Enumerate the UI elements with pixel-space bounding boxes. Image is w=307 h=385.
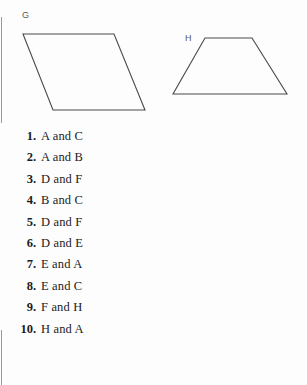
list-item[interactable]: 4. B and C bbox=[0, 190, 307, 211]
figures-svg bbox=[0, 0, 307, 122]
list-item[interactable]: 3. D and F bbox=[0, 169, 307, 190]
figure-label-h: H bbox=[185, 34, 192, 43]
answer-number: 10. bbox=[0, 319, 36, 340]
answer-text: A and B bbox=[41, 147, 83, 168]
parallelogram-shape-g bbox=[23, 34, 145, 110]
answer-text: B and C bbox=[41, 190, 83, 211]
answer-number: 5. bbox=[0, 212, 36, 233]
list-item[interactable]: 1. A and C bbox=[0, 126, 307, 147]
figure-label-g: G bbox=[22, 11, 29, 20]
list-item[interactable]: 10. H and A bbox=[0, 319, 307, 340]
trapezoid-shape-h bbox=[173, 38, 287, 94]
answer-text: H and A bbox=[41, 319, 84, 340]
list-item[interactable]: 9. F and H bbox=[0, 297, 307, 318]
answer-choice-list: 1. A and C 2. A and B 3. D and F 4. B an… bbox=[0, 126, 307, 340]
answer-text: D and E bbox=[41, 233, 83, 254]
answer-number: 1. bbox=[0, 126, 36, 147]
answer-number: 3. bbox=[0, 169, 36, 190]
answer-text: D and F bbox=[41, 212, 82, 233]
answer-number: 7. bbox=[0, 254, 36, 275]
answer-text: E and A bbox=[41, 254, 82, 275]
answer-number: 4. bbox=[0, 190, 36, 211]
list-item[interactable]: 2. A and B bbox=[0, 147, 307, 168]
answer-number: 6. bbox=[0, 233, 36, 254]
answer-text: A and C bbox=[41, 126, 83, 147]
geometry-figures: G H bbox=[0, 0, 307, 122]
answer-number: 9. bbox=[0, 297, 36, 318]
list-item[interactable]: 8. E and C bbox=[0, 276, 307, 297]
answer-number: 8. bbox=[0, 276, 36, 297]
document-page: G H 1. A and C 2. A and B 3. D and F 4. … bbox=[0, 0, 307, 385]
answer-text: D and F bbox=[41, 169, 82, 190]
list-item[interactable]: 6. D and E bbox=[0, 233, 307, 254]
answer-number: 2. bbox=[0, 147, 36, 168]
answer-text: F and H bbox=[41, 297, 82, 318]
answer-text: E and C bbox=[41, 276, 82, 297]
list-item[interactable]: 7. E and A bbox=[0, 254, 307, 275]
list-item[interactable]: 5. D and F bbox=[0, 212, 307, 233]
